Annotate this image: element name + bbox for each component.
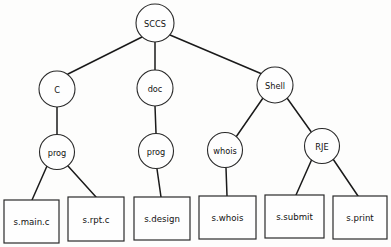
directory-node-prog-c[interactable]: prog — [40, 135, 75, 170]
file-nodes-layer: s.main.cs.rpt.cs.designs.whoiss.submits.… — [4, 195, 387, 243]
node-label-s-print: s.print — [346, 213, 374, 223]
edge-shell-to-rje — [287, 98, 312, 133]
directory-node-c[interactable]: C — [39, 71, 75, 107]
edge-whois-to-s-whois — [226, 168, 227, 196]
edge-sccs-to-shell — [170, 35, 262, 74]
node-label-root: SCCS — [144, 19, 166, 29]
node-label-rje: RJE — [315, 142, 328, 152]
node-label-prog-c: prog — [48, 148, 67, 158]
edges-layer — [32, 35, 358, 200]
node-label-c: C — [54, 85, 60, 95]
directory-node-shell[interactable]: Shell — [257, 67, 293, 103]
edge-prog-to-s-main-c — [32, 166, 47, 200]
node-label-whois: whois — [213, 146, 236, 156]
edge-sccs-to-c — [68, 37, 142, 74]
file-node-s-design[interactable]: s.design — [134, 197, 190, 240]
node-label-s-main-c: s.main.c — [13, 217, 49, 227]
edge-prog-to-s-design — [157, 169, 161, 197]
edge-prog-to-s-rpt-c — [68, 166, 96, 197]
node-label-doc: doc — [148, 84, 163, 94]
edge-shell-to-whois — [236, 98, 263, 137]
directory-nodes-layer: SCCSCdocShellprogprogwhoisRJE — [39, 4, 340, 170]
edge-doc-to-prog — [155, 106, 156, 133]
node-label-shell: Shell — [265, 81, 285, 91]
directory-node-doc[interactable]: doc — [137, 70, 173, 106]
edge-rje-to-s-print — [333, 159, 358, 196]
node-label-s-design: s.design — [144, 214, 180, 224]
directory-node-whois[interactable]: whois — [208, 133, 243, 168]
directory-node-prog-doc[interactable]: prog — [139, 134, 174, 169]
file-node-s-submit[interactable]: s.submit — [265, 195, 324, 238]
node-label-s-submit: s.submit — [276, 212, 313, 222]
node-label-s-whois: s.whois — [212, 213, 244, 223]
edge-rje-to-s-submit — [296, 159, 312, 195]
node-label-prog-doc: prog — [147, 147, 166, 157]
directory-node-root[interactable]: SCCS — [136, 4, 174, 42]
diagram-canvas: SCCSCdocShellprogprogwhoisRJE s.main.cs.… — [0, 0, 391, 247]
file-node-s-main-c[interactable]: s.main.c — [4, 200, 59, 243]
file-node-s-rpt-c[interactable]: s.rpt.c — [68, 197, 124, 241]
file-node-s-whois[interactable]: s.whois — [199, 196, 256, 239]
directory-node-rje[interactable]: RJE — [305, 129, 340, 164]
tree-diagram: SCCSCdocShellprogprogwhoisRJE s.main.cs.… — [0, 0, 391, 247]
file-node-s-print[interactable]: s.print — [333, 196, 387, 239]
node-label-s-rpt-c: s.rpt.c — [82, 215, 109, 225]
